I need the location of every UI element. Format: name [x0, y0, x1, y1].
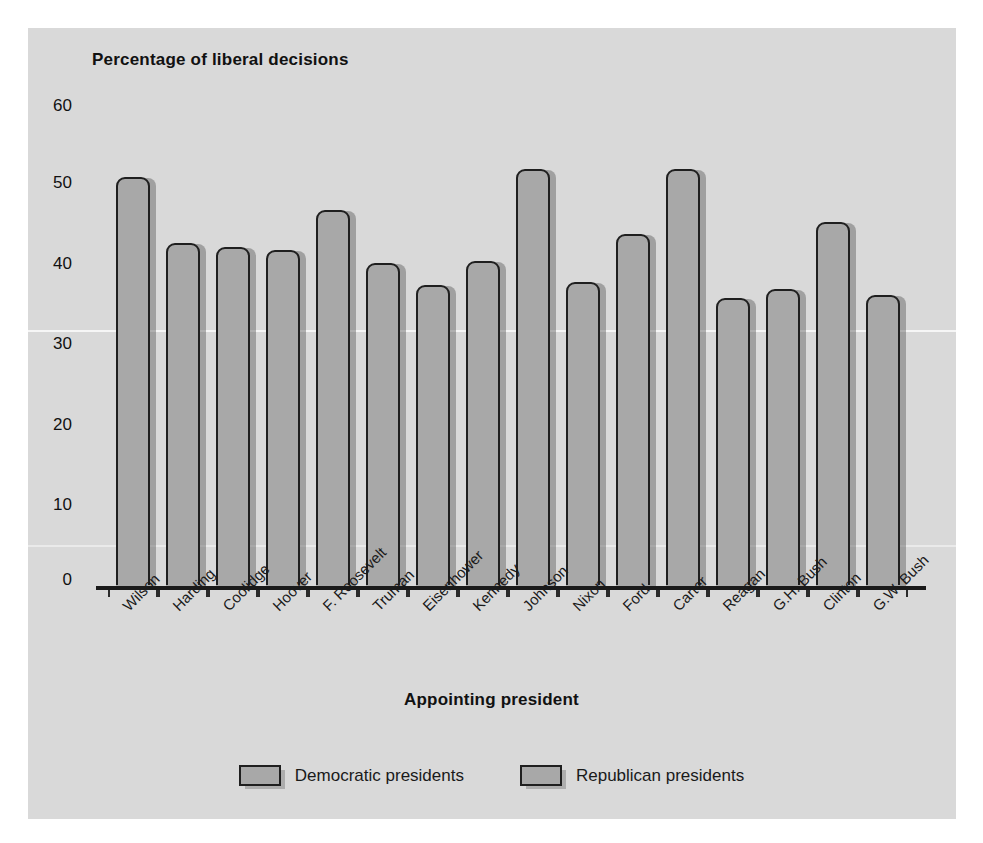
- x-axis-tick: [208, 590, 210, 597]
- bar-johnson[interactable]: [516, 169, 550, 588]
- plot-area: 60 50 40 30 20 10 0 WilsonHardingCoolidg…: [0, 0, 983, 843]
- x-axis-tick: [858, 590, 860, 597]
- bar-reagan[interactable]: [716, 298, 750, 588]
- bar-coolidge[interactable]: [216, 247, 250, 588]
- y-tick-label-40: 40: [28, 254, 72, 274]
- y-tick-label-60: 60: [28, 96, 72, 116]
- bar-wilson[interactable]: [116, 177, 150, 588]
- bar-gh-bush[interactable]: [766, 289, 800, 588]
- bar-harding[interactable]: [166, 243, 200, 588]
- bar-f-roosevelt[interactable]: [316, 210, 350, 588]
- x-axis-tick: [758, 590, 760, 597]
- bar-ford[interactable]: [616, 234, 650, 588]
- y-tick-label-30: 30: [28, 334, 72, 354]
- bar-kennedy[interactable]: [466, 261, 500, 588]
- x-axis-title: Appointing president: [0, 690, 983, 710]
- bar-eisenhower[interactable]: [416, 285, 450, 588]
- x-axis-tick: [658, 590, 660, 597]
- legend-swatch-democratic: [239, 765, 281, 786]
- x-axis-tick: [608, 590, 610, 597]
- legend-swatch-republican: [520, 765, 562, 786]
- bar-nixon[interactable]: [566, 282, 600, 588]
- x-axis-tick: [358, 590, 360, 597]
- bar-truman[interactable]: [366, 263, 400, 588]
- x-axis-tick: [158, 590, 160, 597]
- chart-figure: Percentage of liberal decisions 60 50 40…: [0, 0, 983, 843]
- x-axis-tick: [558, 590, 560, 597]
- bar-carter[interactable]: [666, 169, 700, 588]
- x-axis-tick: [308, 590, 310, 597]
- x-axis-tick: [708, 590, 710, 597]
- legend-label-republican: Republican presidents: [576, 766, 744, 786]
- bar-hoover[interactable]: [266, 250, 300, 588]
- legend-label-democratic: Democratic presidents: [295, 766, 464, 786]
- bar-clinton[interactable]: [816, 222, 850, 588]
- bar-gw-bush[interactable]: [866, 295, 900, 588]
- y-tick-label-0: 0: [28, 570, 72, 590]
- y-tick-label-50: 50: [28, 173, 72, 193]
- x-axis-tick: [906, 590, 908, 597]
- legend-item-republican[interactable]: Republican presidents: [520, 765, 744, 786]
- y-tick-label-20: 20: [28, 415, 72, 435]
- chart-legend: Democratic presidents Republican preside…: [0, 765, 983, 786]
- y-tick-label-10: 10: [28, 495, 72, 515]
- x-axis-tick: [258, 590, 260, 597]
- x-axis-tick: [508, 590, 510, 597]
- legend-item-democratic[interactable]: Democratic presidents: [239, 765, 464, 786]
- x-axis-tick: [808, 590, 810, 597]
- x-axis-tick: [408, 590, 410, 597]
- x-axis-tick: [108, 590, 110, 597]
- x-axis-tick: [458, 590, 460, 597]
